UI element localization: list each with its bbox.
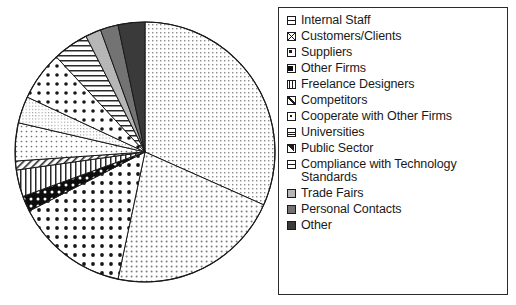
dark-gray-swatch [287,221,296,230]
medium-gray-swatch [287,205,296,214]
legend-list: Internal StaffCustomers/ClientsSuppliers… [287,14,501,232]
corner-dot-swatch [287,48,296,57]
pie-slice-group [15,22,275,282]
diagonal-hatch-swatch [287,96,296,105]
legend-item[interactable]: Other Firms [287,62,501,75]
legend-item-label: Compliance with Technology Standards [301,158,457,184]
legend-item-label: Public Sector [301,142,373,155]
pie-svg [0,0,276,305]
legend-item-label: Suppliers [301,46,352,59]
vertical-lines-swatch [287,80,296,89]
legend-item-label: Universities [301,126,364,139]
legend-item-label: Customers/Clients [301,30,401,43]
fine-grid-swatch [287,128,296,137]
legend-box: Internal StaffCustomers/ClientsSuppliers… [278,7,508,295]
legend-item-label: Freelance Designers [301,78,414,91]
horizontal-lines-swatch [287,160,296,169]
legend-item-label: Trade Fairs [301,187,363,200]
legend-item[interactable]: Customers/Clients [287,30,501,43]
legend-item[interactable]: Universities [287,126,501,139]
legend-item[interactable]: Suppliers [287,46,501,59]
light-gray-swatch [287,189,296,198]
legend-item-label: Other [301,219,332,232]
small-dot-swatch [287,112,296,121]
pie-chart-area [0,0,276,305]
legend-item[interactable]: Personal Contacts [287,203,501,216]
legend-item[interactable]: Public Sector [287,142,501,155]
legend-item[interactable]: Freelance Designers [287,78,501,91]
legend-item-label: Cooperate with Other Firms [301,110,452,123]
legend-item[interactable]: Trade Fairs [287,187,501,200]
legend-item[interactable]: Competitors [287,94,501,107]
legend-item-label: Internal Staff [301,14,370,27]
legend-item[interactable]: Cooperate with Other Firms [287,110,501,123]
half-dot-swatch [287,144,296,153]
black-square-swatch [287,64,296,73]
legend-item-label: Personal Contacts [301,203,401,216]
pie-chart-figure: Internal StaffCustomers/ClientsSuppliers… [0,0,516,305]
legend-item-label: Other Firms [301,62,366,75]
legend-item[interactable]: Compliance with Technology Standards [287,158,501,184]
crossed-box-swatch [287,32,296,41]
legend-item[interactable]: Other [287,219,501,232]
fine-grid-dots-swatch [287,16,296,25]
legend-item-label: Competitors [301,94,367,107]
legend-item[interactable]: Internal Staff [287,14,501,27]
